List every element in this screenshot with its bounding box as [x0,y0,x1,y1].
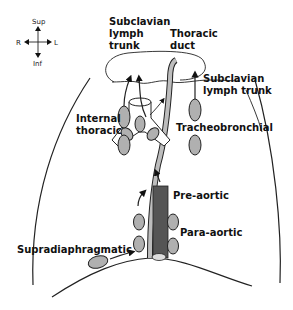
diaphragm-outline [52,258,252,297]
label-subclavian-right: Subclavian lymph trunk [203,73,272,96]
para-aortic-node [134,236,145,252]
left-internal-thoracic-node [189,135,201,155]
arrow-up-icon [35,26,41,31]
internal-thoracic-node [118,135,130,155]
svg-text:duct: duct [170,40,195,51]
venous-loop [106,51,206,82]
aorta [153,186,168,258]
svg-text:Subclavian: Subclavian [203,73,264,84]
label-para-aortic: Para-aortic [180,227,242,238]
svg-text:trunk: trunk [109,40,140,51]
svg-text:lymph: lymph [109,28,144,39]
tracheobronchial-node [135,116,145,132]
label-supradiaphragmatic: Supradiaphragmatic [17,244,132,255]
orientation-compass: Sup Inf R L [16,18,58,68]
thorax-outline-left [255,80,280,283]
lymphatic-drainage-diagram: Sup Inf R L Subcla [0,0,293,310]
para-aortic-node [168,214,179,230]
compass-sup-label: Sup [32,18,46,26]
compass-inf-label: Inf [33,60,43,68]
svg-text:lymph trunk: lymph trunk [203,85,272,96]
para-aortic-arrow [138,192,144,206]
svg-text:thoracic: thoracic [76,125,122,136]
label-thoracic-duct: Thoracic duct [170,28,218,51]
compass-r-label: R [16,39,21,47]
label-pre-aortic: Pre-aortic [173,190,229,201]
left-internal-thoracic-node [189,99,201,121]
svg-text:Thoracic: Thoracic [170,28,218,39]
label-subclavian-left: Subclavian lymph trunk [109,16,170,51]
label-tracheobronchial: Tracheobronchial [176,122,273,133]
para-aortic-node [134,214,145,230]
arrow-down-icon [35,53,41,58]
svg-text:Subclavian: Subclavian [109,16,170,27]
label-internal-thoracic: Internal thoracic [76,113,122,136]
para-aortic-node [168,238,179,254]
cisterna-chyli [152,254,166,261]
tracheobronchial-arrow [150,100,163,115]
arrow-right-icon [47,39,52,45]
svg-text:Internal: Internal [76,113,121,124]
compass-l-label: L [54,39,58,47]
arrow-left-icon [24,39,29,45]
